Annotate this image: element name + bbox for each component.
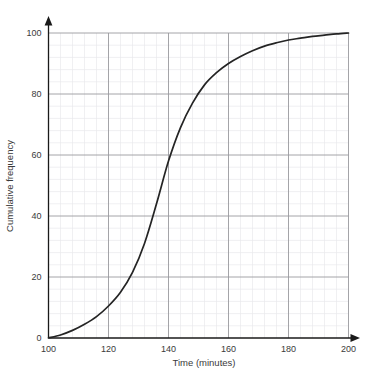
x-axis-tick-label: 200 [341,344,356,354]
x-axis-tick-label: 120 [101,344,116,354]
y-axis-tick-label: 80 [31,89,41,99]
y-axis-tick-label: 20 [31,272,41,282]
cumulative-frequency-curve [49,33,349,338]
x-axis-tick-label: 160 [221,344,236,354]
y-axis-tick-label: 0 [36,333,41,343]
x-axis-tick-label: 180 [281,344,296,354]
chart-canvas: 100120140160180200 020406080100 Time (mi… [0,0,372,378]
x-axis-title: Time (minutes) [173,357,236,368]
x-axis-tick-label: 140 [161,344,176,354]
x-axis-tick-label: 100 [41,344,56,354]
y-axis-title: Cumulative frequency [4,140,15,232]
y-axis-tick-labels: 020406080100 [26,28,41,343]
major-gridlines [49,33,349,338]
cumulative-frequency-chart: 100120140160180200 020406080100 Time (mi… [0,0,372,378]
y-axis-tick-label: 60 [31,150,41,160]
y-axis-tick-label: 100 [26,28,41,38]
minor-gridlines [49,33,349,338]
y-axis-arrow-icon [45,16,53,26]
x-axis-tick-labels: 100120140160180200 [41,344,356,354]
x-axis-arrow-icon [351,334,361,342]
y-axis-tick-label: 40 [31,211,41,221]
